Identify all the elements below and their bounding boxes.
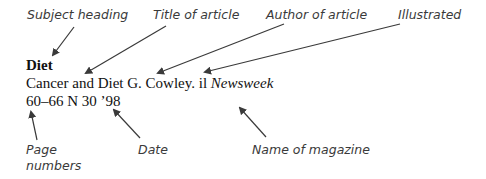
title-of-article-label: Title of article [153,7,239,23]
subject-heading-arrow [53,27,74,55]
article-line: Cancer and Diet G. Cowley. il Newsweek [26,74,273,92]
subject-text: Diet [26,57,53,73]
page-numbers-arrow [31,112,37,140]
page-numbers: 60–66 [26,93,64,109]
article-title: Cancer and Diet [26,75,123,91]
subject-heading-entry: Diet [26,56,53,74]
illustrated-label: Illustrated [398,7,461,23]
subject-heading-label: Subject heading [27,7,128,23]
date-label: Date [138,142,168,158]
author-arrow [158,24,284,73]
page-numbers-label-line1: Page [26,142,81,158]
issue-date: N 30 ’98 [67,93,120,109]
illustrated-abbrev: il [199,75,207,91]
citation-line: 60–66 N 30 ’98 [26,92,121,110]
article-author: G. Cowley. [127,75,195,91]
title-arrow [86,26,166,73]
page-numbers-label-line2: numbers [26,158,81,174]
author-of-article-label: Author of article [266,7,367,23]
illustrated-arrow [205,24,400,72]
page-numbers-label: Page numbers [26,142,81,174]
magazine-arrow [240,108,266,137]
magazine-name: Newsweek [211,75,273,91]
name-of-magazine-label: Name of magazine [252,142,370,158]
date-arrow [114,110,140,138]
